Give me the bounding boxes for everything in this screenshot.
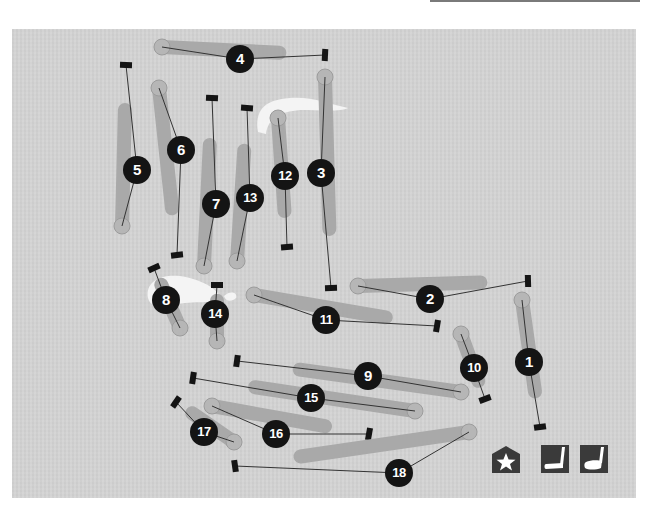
legend-clubhouse[interactable] <box>492 445 520 473</box>
hazard-area <box>224 292 236 300</box>
hole-6[interactable] <box>151 80 183 259</box>
hole-number-badge[interactable]: 12 <box>271 162 299 190</box>
hole-number-badge[interactable]: 5 <box>123 156 151 184</box>
hole-number-badge[interactable]: 2 <box>416 285 444 313</box>
tee-box <box>189 372 197 385</box>
hole-number-badge[interactable]: 15 <box>297 384 325 412</box>
hole-number-badge[interactable]: 14 <box>201 300 229 328</box>
tee-box <box>231 460 239 473</box>
tee-box <box>534 423 547 431</box>
hole-number-badge[interactable]: 1 <box>515 348 543 376</box>
fairway <box>255 387 415 411</box>
hole-5[interactable] <box>114 62 137 234</box>
tee-box <box>147 263 160 273</box>
hole-7[interactable] <box>196 95 218 274</box>
hole-11[interactable] <box>246 287 441 332</box>
hole-number-badge[interactable]: 18 <box>385 459 413 487</box>
tee-box <box>211 282 223 288</box>
hole-number-badge[interactable]: 7 <box>202 190 230 218</box>
tee-box <box>281 244 293 251</box>
tee-box <box>365 428 373 441</box>
legend-putting-green[interactable] <box>541 445 569 473</box>
tee-box <box>206 95 218 102</box>
tee-box <box>233 355 241 368</box>
tee-box <box>525 275 531 287</box>
legend-driving-range[interactable] <box>580 445 608 473</box>
clubhouse-star-icon <box>492 445 520 473</box>
course-layout <box>0 0 646 514</box>
hole-number-badge[interactable]: 17 <box>190 418 218 446</box>
hole-number-badge[interactable]: 6 <box>167 136 195 164</box>
hole-number-badge[interactable]: 13 <box>236 184 264 212</box>
hole-number-badge[interactable]: 4 <box>226 45 254 73</box>
tee-box <box>120 62 132 68</box>
hole-number-badge[interactable]: 9 <box>354 362 382 390</box>
putter-icon <box>541 445 569 473</box>
hole-number-badge[interactable]: 3 <box>307 159 335 187</box>
tee-box <box>478 394 491 404</box>
hole-number-badge[interactable]: 10 <box>460 354 488 382</box>
tee-box <box>433 320 441 333</box>
tee-box <box>241 105 253 112</box>
tee-box <box>325 285 337 291</box>
tee-box <box>171 251 184 258</box>
hole-number-badge[interactable]: 11 <box>312 306 340 334</box>
fairway <box>325 77 329 229</box>
tee-box <box>322 49 329 61</box>
hole-number-badge[interactable]: 16 <box>262 420 290 448</box>
fairway <box>358 282 480 286</box>
driver-icon <box>580 445 608 473</box>
fairway <box>301 432 469 456</box>
hole-number-badge[interactable]: 8 <box>152 286 180 314</box>
